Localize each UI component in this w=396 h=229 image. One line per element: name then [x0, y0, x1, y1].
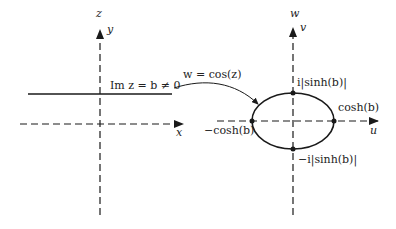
label-top-i-sinh: i|sinh(b)| [297, 76, 347, 90]
label-left-neg-cosh: −cosh(b) [204, 124, 254, 137]
point-top [291, 91, 296, 96]
diagram-canvas: z y x Im z = b ≠ 0 w = cos(z) w v u i|si… [0, 0, 396, 229]
point-bottom [291, 147, 296, 152]
label-right-cosh: cosh(b) [338, 101, 379, 114]
z-plane-label: z [95, 7, 102, 20]
y-axis-label: y [106, 23, 114, 36]
point-left [250, 119, 255, 124]
point-right [332, 119, 337, 124]
mapping-arrow: w = cos(z) [174, 68, 258, 104]
v-axis-label: v [300, 21, 307, 34]
label-bottom-neg-i-sinh: −i|sinh(b)| [298, 153, 357, 167]
u-axis-label: u [370, 124, 377, 137]
w-plane: w v u i|sinh(b)| −i|sinh(b)| cosh(b) −co… [204, 7, 379, 215]
mapping-curve [174, 83, 258, 104]
x-axis-label: x [176, 126, 183, 139]
mapping-label: w = cos(z) [183, 68, 241, 81]
w-plane-label: w [290, 7, 300, 20]
line-label: Im z = b ≠ 0 [110, 79, 181, 92]
z-plane: z y x Im z = b ≠ 0 [20, 7, 183, 215]
